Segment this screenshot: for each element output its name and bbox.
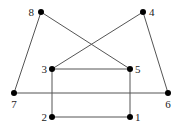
edge-8-5 — [41, 12, 130, 69]
labels-layer: 12345678 — [11, 6, 171, 123]
node-label-6: 6 — [165, 98, 171, 110]
graph-diagram: 12345678 — [0, 0, 178, 129]
node-7 — [11, 90, 17, 96]
node-label-2: 2 — [42, 111, 48, 123]
edge-4-6 — [143, 12, 168, 93]
node-8 — [38, 9, 44, 15]
edge-8-7 — [14, 12, 41, 93]
node-label-7: 7 — [11, 98, 17, 110]
node-5 — [127, 66, 133, 72]
node-3 — [49, 66, 55, 72]
node-label-3: 3 — [42, 63, 48, 75]
node-label-1: 1 — [135, 111, 141, 123]
node-6 — [165, 90, 171, 96]
node-label-4: 4 — [149, 6, 155, 18]
node-4 — [140, 9, 146, 15]
node-1 — [127, 114, 133, 120]
node-label-8: 8 — [29, 6, 35, 18]
edge-4-3 — [52, 12, 143, 69]
edges-layer — [14, 12, 168, 117]
node-2 — [49, 114, 55, 120]
node-label-5: 5 — [135, 63, 141, 75]
